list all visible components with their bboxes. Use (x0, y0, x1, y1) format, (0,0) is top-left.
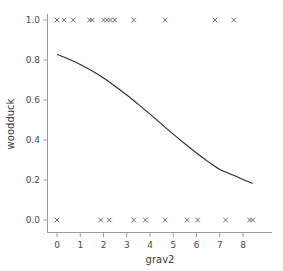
data-point-marker (108, 18, 113, 23)
x-axis-ticks: 012345678 (54, 233, 246, 251)
y-tick-label: 0.2 (26, 175, 40, 185)
data-point-marker (163, 218, 168, 223)
data-point-marker (55, 18, 60, 23)
x-axis-title: grav2 (146, 254, 175, 265)
x-tick-label: 3 (124, 240, 130, 250)
data-markers (55, 18, 255, 223)
scatter-plot: 0.00.20.40.60.81.0 012345678 grav2 woodd… (0, 0, 283, 271)
y-tick-label: 0.6 (26, 95, 41, 105)
y-axis-ticks: 0.00.20.40.60.81.0 (26, 15, 48, 225)
data-point-marker (231, 18, 236, 23)
y-tick-label: 0.0 (26, 215, 41, 225)
chart-figure: 0.00.20.40.60.81.0 012345678 grav2 woodd… (0, 0, 283, 271)
y-tick-label: 0.4 (26, 135, 41, 145)
x-tick-label: 6 (194, 240, 200, 250)
x-tick-label: 2 (101, 240, 107, 250)
data-point-marker (90, 18, 95, 23)
data-point-marker (213, 18, 218, 23)
data-point-marker (98, 218, 103, 223)
data-point-marker (131, 218, 136, 223)
x-tick-label: 7 (217, 240, 223, 250)
x-tick-label: 1 (77, 240, 83, 250)
data-point-marker (71, 18, 76, 23)
data-point-marker (107, 218, 112, 223)
x-tick-label: 4 (147, 240, 153, 250)
data-point-marker (185, 218, 190, 223)
x-tick-label: 5 (170, 240, 176, 250)
data-point-marker (62, 18, 67, 23)
data-point-marker (131, 18, 136, 23)
axes-lines (48, 14, 273, 233)
data-point-marker (195, 218, 200, 223)
data-point-marker (163, 18, 168, 23)
data-point-marker (112, 18, 117, 23)
x-tick-label: 8 (240, 240, 246, 250)
data-point-marker (55, 218, 60, 223)
y-axis-title: woodduck (5, 98, 16, 149)
x-tick-label: 0 (54, 240, 60, 250)
data-point-marker (223, 218, 228, 223)
y-tick-label: 1.0 (26, 15, 41, 25)
fitted-logistic-curve (57, 54, 253, 183)
data-point-marker (143, 218, 148, 223)
data-point-marker (250, 218, 255, 223)
y-tick-label: 0.8 (26, 55, 41, 65)
